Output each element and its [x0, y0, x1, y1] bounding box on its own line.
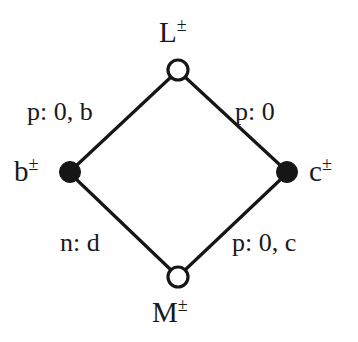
node-label-L: L± — [159, 16, 187, 47]
node-label-M-base: M — [152, 296, 178, 328]
node-label-b-base: b — [14, 155, 29, 187]
node-label-L-superscript: ± — [177, 15, 187, 35]
node-label-b: b± — [14, 155, 38, 186]
node-label-c: c± — [309, 155, 332, 186]
node-marker-b — [60, 162, 81, 183]
diagram-canvas: L± b± c± M± p: 0, b p: 0 n: d p: 0, c — [0, 0, 358, 342]
node-label-L-base: L — [159, 16, 177, 48]
node-label-c-base: c — [309, 155, 322, 187]
node-label-M: M± — [152, 296, 188, 327]
edge-label-b-M: n: d — [60, 230, 100, 256]
node-marker-c — [277, 162, 298, 183]
node-label-c-superscript: ± — [322, 154, 332, 174]
node-label-b-superscript: ± — [29, 154, 39, 174]
edge-label-L-b: p: 0, b — [27, 99, 93, 125]
edge-label-M-c: p: 0, c — [232, 230, 296, 256]
node-label-M-superscript: ± — [178, 295, 188, 315]
edge-label-L-c: p: 0 — [235, 99, 275, 125]
diagram-graphics — [0, 0, 358, 342]
node-marker-M — [168, 267, 188, 287]
node-marker-L — [168, 60, 188, 80]
